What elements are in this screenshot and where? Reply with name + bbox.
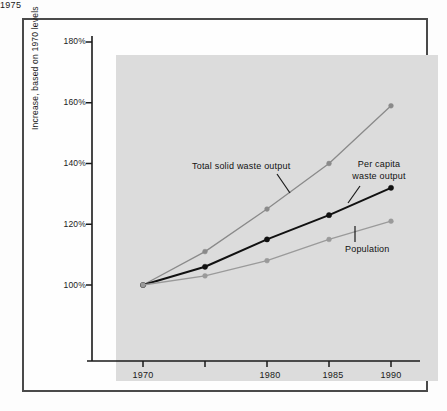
leader-line-per-capita-waste-output (348, 186, 360, 203)
data-point-total-solid-waste-output-1990 (389, 103, 394, 108)
axes-group (87, 36, 420, 361)
chart-canvas (0, 0, 447, 411)
data-point-per-capita-waste-output-1980 (264, 237, 269, 242)
data-point-per-capita-waste-output-1975 (202, 264, 207, 269)
data-point-population-1970 (141, 283, 146, 288)
data-point-per-capita-waste-output-1990 (388, 185, 393, 190)
data-point-population-1990 (389, 219, 394, 224)
chart-figure: Increase, based on 1970 levels 100% 120%… (0, 0, 447, 411)
series-per-capita-waste-output (140, 185, 393, 287)
data-point-population-1985 (327, 237, 332, 242)
data-point-total-solid-waste-output-1980 (265, 207, 270, 212)
data-point-population-1975 (203, 273, 208, 278)
data-point-per-capita-waste-output-1985 (326, 213, 331, 218)
series-line-per-capita-waste-output (143, 188, 391, 285)
leader-line-total-solid-waste-output (277, 174, 290, 193)
x-axis-ticks (143, 361, 391, 367)
series-line-population (143, 221, 391, 285)
data-point-total-solid-waste-output-1975 (203, 249, 208, 254)
data-point-total-solid-waste-output-1985 (327, 161, 332, 166)
y-axis-ticks (86, 42, 92, 285)
data-point-population-1980 (265, 258, 270, 263)
